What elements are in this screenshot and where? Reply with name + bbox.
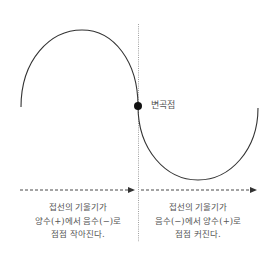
caption-line: 점점 커진다. [138,228,258,242]
concave-down-curve [21,30,138,107]
concave-up-curve [138,106,258,180]
caption-line: 음수(−)에서 양수(+)로 [138,215,258,229]
right-region-caption: 접선의 기울기가 음수(−)에서 양수(+)로 점점 커진다. [138,201,258,242]
caption-line: 점점 작아진다. [18,228,138,242]
caption-line: 접선의 기울기가 [138,201,258,215]
caption-line: 양수(+)에서 음수(−)로 [18,215,138,229]
inflection-point-label: 변곡점 [151,99,175,112]
caption-line: 접선의 기울기가 [18,201,138,215]
left-region-caption: 접선의 기울기가 양수(+)에서 음수(−)로 점점 작아진다. [18,201,138,242]
inflection-point-marker [134,102,142,110]
